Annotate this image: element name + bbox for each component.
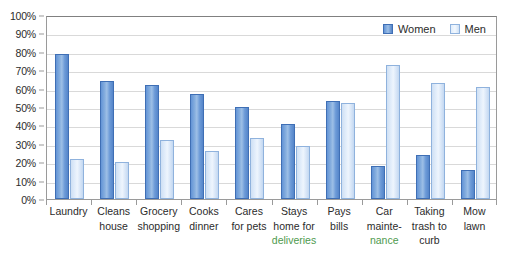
bar-group — [47, 17, 92, 199]
bar-women — [416, 155, 430, 199]
bar-men — [296, 146, 310, 199]
y-axis-tick-mark — [39, 163, 44, 164]
x-axis-label: Takingtrash tocurb — [407, 204, 452, 248]
bar-women — [235, 107, 249, 199]
y-axis-tick-label: 50% — [16, 102, 36, 114]
x-axis-label-line: Cares — [226, 204, 271, 219]
x-axis-label-line: bills — [317, 219, 362, 234]
legend: Women Men — [383, 23, 486, 35]
bar-women — [461, 170, 475, 199]
bar-men — [386, 65, 400, 199]
bar-women — [371, 166, 385, 199]
x-axis-label-line: curb — [407, 233, 452, 248]
bar-chart: 0%10%20%30%40%50%60%70%80%90%100% Women … — [0, 0, 515, 257]
x-axis-label: Carmainte-nance — [362, 204, 407, 248]
x-axis-label-line: lawn — [452, 219, 497, 234]
y-axis-tick-label: 60% — [16, 84, 36, 96]
x-axis-label: Cleanshouse — [91, 204, 136, 233]
y-axis-tick-mark — [39, 16, 44, 17]
bar-men — [160, 140, 174, 199]
bar-men — [115, 162, 129, 199]
bar-women — [281, 124, 295, 199]
y-axis-tick-label: 90% — [16, 28, 36, 40]
bar-series-container — [47, 17, 496, 199]
x-axis-label-line: home for — [272, 219, 317, 234]
x-axis-label-line: Grocery — [136, 204, 181, 219]
x-axis-label-line: Stays — [272, 204, 317, 219]
bar-women — [100, 81, 114, 199]
y-axis-tick-mark — [39, 126, 44, 127]
x-axis-label: Caresfor pets — [226, 204, 271, 233]
legend-label-women: Women — [398, 23, 436, 35]
x-axis-label-line: Laundry — [46, 204, 91, 219]
bar-group — [273, 17, 318, 199]
x-axis-label-line: Mow — [452, 204, 497, 219]
x-axis-label-line: nance — [362, 233, 407, 248]
y-axis-tick-mark — [39, 52, 44, 53]
x-axis-label: Cooksdinner — [181, 204, 226, 233]
x-axis-label-line: deliveries — [272, 233, 317, 248]
bar-men — [70, 159, 84, 199]
x-axis-label: Stayshome fordeliveries — [272, 204, 317, 248]
x-axis-label-line: Taking — [407, 204, 452, 219]
y-axis-tick-label: 30% — [16, 139, 36, 151]
bar-women — [326, 101, 340, 199]
bar-group — [137, 17, 182, 199]
bar-group — [182, 17, 227, 199]
x-axis-label: Paysbills — [317, 204, 362, 233]
x-axis-label-line: trash to — [407, 219, 452, 234]
x-axis-label-line: Cooks — [181, 204, 226, 219]
y-axis-tick-label: 0% — [21, 194, 36, 206]
y-axis-tick-label: 80% — [16, 47, 36, 59]
y-axis-tick-mark — [39, 89, 44, 90]
x-axis-label-line: Car — [362, 204, 407, 219]
y-axis-tick-label: 40% — [16, 120, 36, 132]
y-axis-tick-label: 70% — [16, 65, 36, 77]
y-axis-tick-label: 100% — [10, 10, 36, 22]
bar-group — [318, 17, 363, 199]
x-axis-label-line: Pays — [317, 204, 362, 219]
plot-area: Women Men — [46, 16, 497, 200]
legend-item-men: Men — [450, 23, 486, 35]
bar-group — [453, 17, 498, 199]
bar-group — [363, 17, 408, 199]
y-axis-tick-mark — [39, 144, 44, 145]
x-axis-label-line: Cleans — [91, 204, 136, 219]
bar-women — [145, 85, 159, 199]
x-axis-label-line: shopping — [136, 219, 181, 234]
bar-women — [190, 94, 204, 199]
bar-men — [476, 87, 490, 199]
x-axis-label: Groceryshopping — [136, 204, 181, 233]
bar-men — [341, 103, 355, 199]
y-axis-tick-mark — [39, 200, 44, 201]
x-axis-label-line: mainte- — [362, 219, 407, 234]
bar-men — [205, 151, 219, 199]
y-axis: 0%10%20%30%40%50%60%70%80%90%100% — [0, 16, 44, 200]
x-axis-label-line: house — [91, 219, 136, 234]
bar-men — [250, 138, 264, 199]
y-axis-tick-mark — [39, 108, 44, 109]
bar-men — [431, 83, 445, 199]
x-axis-label: Mowlawn — [452, 204, 497, 233]
y-axis-tick-label: 10% — [16, 176, 36, 188]
x-axis-labels: LaundryCleanshouseGroceryshoppingCooksdi… — [46, 204, 497, 257]
bar-group — [92, 17, 137, 199]
bar-group — [227, 17, 272, 199]
bar-group — [408, 17, 453, 199]
x-axis-label: Laundry — [46, 204, 91, 219]
y-axis-tick-label: 20% — [16, 157, 36, 169]
y-axis-tick-mark — [39, 34, 44, 35]
y-axis-tick-mark — [39, 71, 44, 72]
legend-label-men: Men — [465, 23, 486, 35]
x-axis-label-line: dinner — [181, 219, 226, 234]
bar-women — [55, 54, 69, 199]
y-axis-tick-mark — [39, 181, 44, 182]
legend-swatch-men-icon — [450, 24, 460, 34]
legend-item-women: Women — [383, 23, 436, 35]
x-axis-label-line: for pets — [226, 219, 271, 234]
legend-swatch-women-icon — [383, 24, 393, 34]
